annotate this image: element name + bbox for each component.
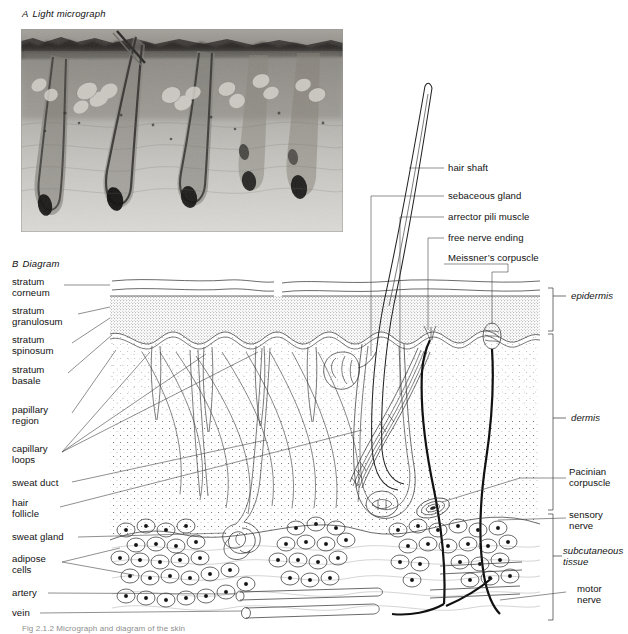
label-stratum-basale: stratum basale <box>12 364 44 387</box>
label-sweat-duct: sweat duct <box>12 477 58 488</box>
label-stratum-granulosum: stratum granulosum <box>12 305 63 328</box>
label-pacinian-corpuscle: Pacinian corpuscle <box>569 466 611 489</box>
label-stratum-spinosum: stratum spinosum <box>12 334 53 357</box>
label-capillary-loops: capillary loops <box>12 443 48 466</box>
label-vein: vein <box>12 607 30 618</box>
figure-skin-structure: ALight micrograph <box>0 0 628 634</box>
label-meissners-corpuscle: Meissner’s corpuscle <box>448 252 539 263</box>
figure-caption: Fig 2.1.2 Micrograph and diagram of the … <box>22 624 185 633</box>
label-hair-shaft: hair shaft <box>448 162 488 173</box>
label-motor-nerve: motor nerve <box>577 583 602 606</box>
label-papillary-region: papillary region <box>12 404 48 427</box>
label-sweat-gland: sweat gland <box>12 531 64 542</box>
stratum-corneum-surface <box>110 280 540 296</box>
label-adipose-cells: adipose cells <box>12 553 46 576</box>
skin-cross-section-diagram <box>0 0 628 634</box>
label-dermis: dermis <box>571 412 600 423</box>
label-subcutaneous-tissue: subcutaneous tissue <box>563 545 623 568</box>
label-artery: artery <box>12 587 37 598</box>
label-epidermis: epidermis <box>571 290 613 301</box>
label-sensory-nerve: sensory nerve <box>569 509 603 532</box>
label-sebaceous-gland: sebaceous gland <box>448 190 521 201</box>
label-stratum-corneum: stratum corneum <box>12 276 50 299</box>
label-arrector-pili-muscle: arrector pili muscle <box>448 211 530 222</box>
label-hair-follicle: hair follicle <box>12 497 39 520</box>
region-brackets <box>548 288 566 620</box>
label-free-nerve-ending: free nerve ending <box>448 232 524 243</box>
